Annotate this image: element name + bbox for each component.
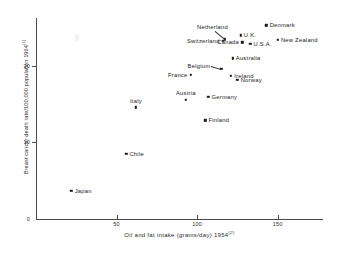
data-point-label: Germany — [212, 94, 238, 100]
x-axis-title: Oil and fat intake (grams/day) 1954(2) — [36, 232, 323, 238]
data-point — [135, 106, 137, 108]
data-point-label: Japan — [75, 188, 92, 194]
data-point — [236, 78, 238, 80]
data-point-label: Denmark — [270, 22, 295, 28]
data-point-label: France — [168, 72, 188, 78]
data-point — [277, 39, 279, 41]
scan-artifact — [75, 34, 79, 41]
data-point — [189, 74, 191, 76]
data-point-label: Norway — [241, 77, 262, 83]
y-axis-title-footnote: (1) — [21, 40, 26, 45]
data-point — [207, 95, 209, 97]
y-tick-label: 0 — [12, 216, 30, 222]
x-tick-mark — [197, 215, 198, 220]
x-tick-mark — [278, 215, 279, 220]
data-point-label: Switzerland — [187, 38, 220, 44]
data-point-label: Belgium — [188, 63, 211, 69]
data-point-label: Australia — [236, 55, 261, 61]
data-point — [265, 24, 267, 26]
x-tick-label: 50 — [102, 221, 132, 227]
x-tick-label: 150 — [263, 221, 293, 227]
x-tick-label: 100 — [182, 221, 212, 227]
x-tick-mark — [117, 215, 118, 220]
y-axis-line — [36, 18, 37, 220]
data-point-label: Finland — [208, 117, 229, 123]
data-point-label: U.S.A. — [254, 41, 272, 47]
label-leader-line — [211, 66, 221, 70]
data-point — [241, 41, 243, 43]
y-axis-title: Breast cancer death rate/100,000 populat… — [23, 7, 29, 207]
data-point — [125, 153, 127, 155]
x-axis-line — [36, 219, 323, 220]
data-point — [204, 119, 206, 121]
data-point-label: Netherland — [197, 24, 228, 30]
data-point-label: Canada — [217, 39, 239, 45]
data-point — [230, 75, 232, 77]
x-axis-title-text: Oil and fat intake (grams/day) 1954 — [124, 232, 228, 238]
y-tick-mark — [32, 142, 37, 143]
data-point-label: Austria — [176, 90, 196, 96]
data-point — [185, 98, 187, 100]
data-point — [239, 34, 241, 36]
data-point-label: Chile — [129, 151, 143, 157]
x-axis-title-footnote: (2) — [229, 230, 235, 235]
data-point — [231, 57, 233, 59]
y-tick-mark — [32, 66, 37, 67]
data-point — [70, 189, 72, 191]
y-axis-title-text: Breast cancer death rate/100,000 populat… — [23, 45, 29, 174]
data-point-label: Italy — [130, 98, 142, 104]
data-point — [249, 43, 251, 45]
data-point-label: New Zealand — [281, 37, 318, 43]
scatter-chart-figure: 5010015001020 Breast cancer death rate/1… — [0, 0, 340, 255]
data-point-label: U.K. — [244, 32, 256, 38]
